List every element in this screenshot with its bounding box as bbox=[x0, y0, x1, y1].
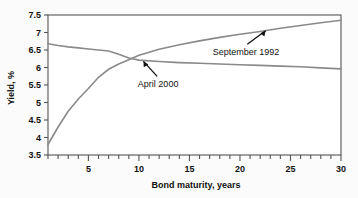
y-tick-label: 3.5 bbox=[28, 150, 41, 160]
y-tick-label: 7 bbox=[36, 28, 41, 38]
series-annotation-label: September 1992 bbox=[213, 47, 280, 57]
x-tick-label: 25 bbox=[285, 164, 295, 174]
x-tick-label: 15 bbox=[184, 164, 194, 174]
series-annotation-label: April 2000 bbox=[138, 79, 179, 89]
x-tick-label: 30 bbox=[336, 164, 346, 174]
y-axis-title: Yield, % bbox=[6, 71, 16, 105]
y-tick-label: 4 bbox=[36, 133, 41, 143]
x-tick-label: 5 bbox=[86, 164, 91, 174]
x-tick-label: 10 bbox=[134, 164, 144, 174]
y-tick-label: 6.5 bbox=[28, 45, 41, 55]
yield-curve-figure: 3.544.555.566.577.5 51015202530 April 20… bbox=[0, 0, 358, 198]
y-tick-label: 7.5 bbox=[28, 10, 41, 20]
x-tick-label: 20 bbox=[235, 164, 245, 174]
y-tick-label: 5 bbox=[36, 98, 41, 108]
y-tick-label: 6 bbox=[36, 63, 41, 73]
y-tick-label: 4.5 bbox=[28, 115, 41, 125]
y-tick-label: 5.5 bbox=[28, 80, 41, 90]
x-axis-title: Bond maturity, years bbox=[152, 180, 241, 190]
chart-canvas: 3.544.555.566.577.5 51015202530 April 20… bbox=[0, 0, 358, 198]
